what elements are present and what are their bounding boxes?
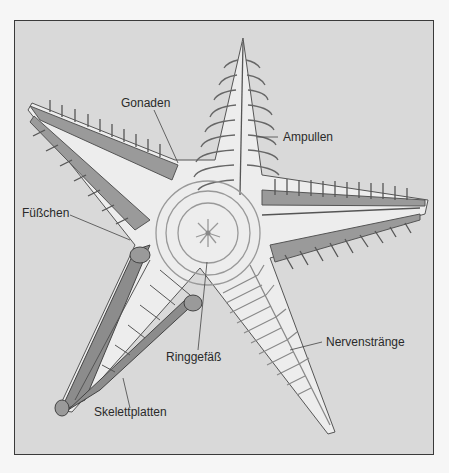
label-skelettplatten: Skelettplatten: [94, 406, 167, 418]
label-fuesschen: Füßchen: [22, 207, 69, 219]
label-gonaden: Gonaden: [121, 97, 170, 109]
label-ampullen: Ampullen: [283, 131, 333, 143]
starfish-illustration: [0, 0, 449, 473]
label-ringgefaess: Ringgefäß: [166, 351, 221, 363]
label-nervenstraenge: Nervenstränge: [326, 336, 405, 348]
